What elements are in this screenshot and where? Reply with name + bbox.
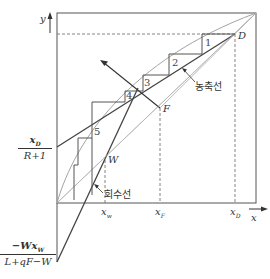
x-axis-label: x <box>251 213 257 223</box>
stripping-intercept-label: −WxW L+qF−W <box>0 240 56 267</box>
xf-tick-label: xF <box>155 207 165 219</box>
xd-tick-label: xD <box>230 207 240 219</box>
stripping-operating-line <box>57 88 138 262</box>
y-arrow-head <box>48 12 53 19</box>
stripping-line-label: 회수선 <box>104 186 131 201</box>
stage-4-label: 4 <box>126 91 132 101</box>
rectifying-line-label: 농축선 <box>195 78 222 93</box>
stage-3-label: 3 <box>144 78 150 88</box>
xw-tick-label: xw <box>101 207 112 219</box>
auxiliary-line <box>57 13 256 203</box>
point-f-label: F <box>163 104 170 114</box>
stage-2-label: 2 <box>172 58 178 68</box>
point-w-label: W <box>108 155 118 165</box>
y-axis-label: y <box>40 14 46 24</box>
x-arrow-head <box>261 207 268 212</box>
point-d-label: D <box>238 31 246 41</box>
stage-1-label: 1 <box>205 38 211 48</box>
stage-5-label: 5 <box>94 127 100 137</box>
rectifying-intercept-label: xD R+1 <box>18 134 52 161</box>
